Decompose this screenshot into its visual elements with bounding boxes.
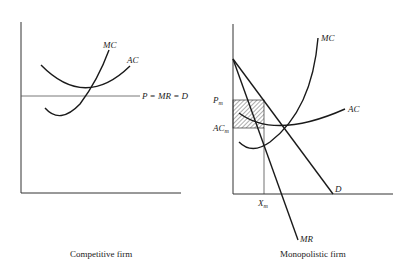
left-mc-label: MC	[102, 40, 117, 50]
diagram-canvas: MC AC P = MR = D Competitive firm MC AC …	[0, 0, 406, 270]
monopolistic-firm-chart: MC AC D MR Pm ACm Xm Monopolistic firm	[212, 24, 393, 259]
demand-label: D	[334, 184, 342, 194]
right-mc-curve	[239, 38, 318, 149]
xm-label: Xm	[257, 198, 269, 209]
right-caption: Monopolistic firm	[280, 249, 346, 259]
left-caption: Competitive firm	[70, 249, 132, 259]
acm-label: ACm	[212, 123, 230, 134]
left-axes	[21, 22, 181, 193]
left-ac-curve	[41, 65, 130, 88]
competitive-firm-chart: MC AC P = MR = D Competitive firm	[21, 22, 188, 259]
price-line-label: P = MR = D	[141, 91, 188, 101]
mr-label: MR	[299, 234, 313, 244]
right-mc-label: MC	[320, 33, 335, 43]
pm-label: Pm	[212, 95, 224, 106]
mr-curve	[233, 59, 298, 240]
left-mc-curve	[45, 50, 109, 116]
right-ac-label: AC	[347, 104, 360, 114]
left-ac-label: AC	[126, 55, 139, 65]
